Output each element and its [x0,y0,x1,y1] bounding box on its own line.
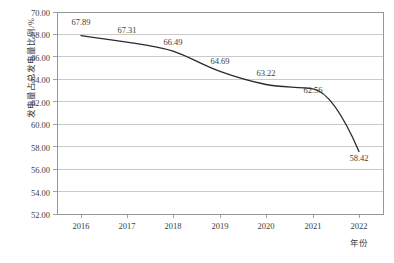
point-label-2021: 62.56 [290,85,336,95]
x-axis-title: 年份 [334,236,384,248]
x-tick-label-2016: 2016 [61,221,101,231]
x-axis-ticks [81,214,359,218]
x-tick-label-2022: 2022 [339,221,379,231]
point-label-2020: 63.22 [243,68,289,78]
x-tick-label-2021: 2021 [293,221,333,231]
x-tick-label-2020: 2020 [246,221,286,231]
plot-frame [57,12,383,214]
line-chart: 发电量占总发电量比例/% 70.00 68.00 66.00 64.00 62.… [0,0,394,263]
point-label-2016: 67.89 [58,17,104,27]
y-axis-ticks [53,12,57,214]
x-tick-label-2017: 2017 [107,221,147,231]
point-label-2017: 67.31 [104,25,150,35]
plot-area [0,0,394,263]
point-label-2019: 64.69 [197,56,243,66]
point-label-2022: 58.42 [336,153,382,163]
point-label-2018: 66.49 [150,37,196,47]
x-tick-label-2018: 2018 [153,221,193,231]
x-tick-label-2019: 2019 [200,221,240,231]
